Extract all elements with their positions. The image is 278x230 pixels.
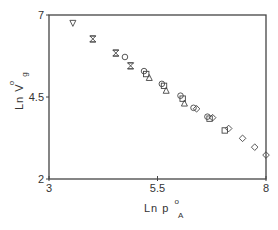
y-axis-label-sub: g [20, 71, 29, 76]
y-tick-label: 2 [38, 173, 44, 185]
data-point-diamond [251, 144, 258, 151]
y-axis-label-main: Ln V [13, 83, 25, 110]
axes [49, 15, 266, 179]
data-point-hourglass [113, 50, 119, 56]
data-point-circle [205, 114, 211, 120]
data-point-diamond [225, 125, 232, 132]
x-tick-label: 5.5 [150, 182, 165, 194]
data-point-diamond [239, 135, 246, 142]
x-tick-label: 3 [46, 182, 52, 194]
data-point-hourglass [90, 36, 96, 42]
y-tick-label: 7 [38, 9, 44, 21]
plot-frame [49, 15, 266, 179]
ticks: 35.5824.57 [29, 9, 269, 194]
data-points [70, 20, 269, 158]
data-point-hourglass [128, 63, 134, 69]
data-point-circle [159, 81, 165, 87]
data-point-triangle-down [70, 20, 76, 26]
y-axis-label: Ln V o g [4, 71, 29, 110]
x-tick-label: 8 [263, 182, 269, 194]
data-point-triangle-up [146, 74, 152, 80]
data-point-circle [122, 54, 128, 60]
y-tick-label: 4.5 [29, 91, 44, 103]
x-axis-label-sub: A [178, 211, 184, 220]
x-axis-label-sup: o [174, 197, 179, 206]
data-point-circle [191, 105, 197, 111]
y-axis-label-sup: o [7, 80, 16, 85]
x-axis-label-main: Ln p [144, 202, 169, 214]
scatter-chart: 35.5824.57 Ln p o A Ln V o g [0, 0, 278, 230]
data-point-square [222, 128, 227, 133]
x-axis-label: Ln p o A [144, 194, 184, 220]
